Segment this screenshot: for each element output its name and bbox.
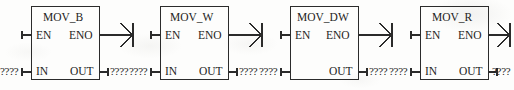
ladder-diagram-canvas: MOV_B EN ENO IN OUT ???? ???? MOV_W EN E… xyxy=(0,0,514,90)
pin-label-in-mov-r: IN xyxy=(425,66,437,77)
operand-out-mov-r[interactable]: ???? xyxy=(492,66,510,77)
block-title-mov-r: MOV_R xyxy=(432,12,472,23)
pin-label-en-mov-r: EN xyxy=(425,30,440,41)
pin-label-eno-mov-r: ENO xyxy=(458,30,482,41)
pin-label-out-mov-r: OUT xyxy=(459,66,483,77)
operand-in-mov-r[interactable]: ???? xyxy=(389,66,407,77)
